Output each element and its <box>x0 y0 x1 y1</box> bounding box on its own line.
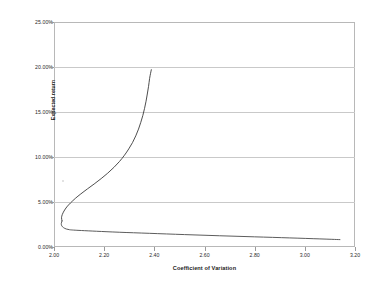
y-axis-tick-label: 25.00% <box>7 19 53 25</box>
stray-mark-artifact <box>62 180 64 182</box>
y-axis-tick-label: 10.00% <box>7 154 53 160</box>
y-axis-tick-label: 5.00% <box>7 199 53 205</box>
x-axis-tick-mark <box>205 247 206 251</box>
y-axis-title: Expected return <box>50 60 56 140</box>
x-axis-tick-label: 3.00 <box>285 252 325 258</box>
x-axis-tick-label: 2.80 <box>235 252 275 258</box>
y-axis-tick-mark <box>50 22 54 23</box>
x-axis-tick-label: 2.40 <box>134 252 174 258</box>
x-axis-tick-mark <box>355 247 356 251</box>
series-line-lower-branch <box>61 221 340 240</box>
x-axis-tick-mark <box>305 247 306 251</box>
series-line-upper-branch <box>62 70 152 221</box>
x-axis-title: Coefficient of Variation <box>54 265 355 271</box>
x-axis-tick-label: 2.20 <box>84 252 124 258</box>
x-axis-tick-mark <box>54 247 55 251</box>
y-axis-tick-mark <box>50 157 54 158</box>
y-axis-tick-label: 20.00% <box>7 64 53 70</box>
y-axis-tick-label: 0.00% <box>7 244 53 250</box>
x-axis-tick-mark <box>154 247 155 251</box>
y-axis-tick-label: 15.00% <box>7 109 53 115</box>
data-series-layer <box>54 22 355 247</box>
x-axis-tick-label: 2.00 <box>34 252 74 258</box>
chart-container: 0.00%5.00%10.00%15.00%20.00%25.00% 2.002… <box>0 0 383 288</box>
y-axis-tick-mark <box>50 202 54 203</box>
x-axis-tick-label: 3.20 <box>335 252 375 258</box>
x-axis-tick-label: 2.60 <box>185 252 225 258</box>
x-axis-tick-mark <box>104 247 105 251</box>
x-axis-tick-mark <box>255 247 256 251</box>
